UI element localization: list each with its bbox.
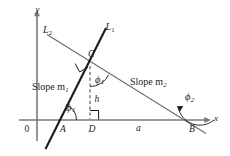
angle-label-phi1-at-A: ϕ1: [66, 103, 75, 115]
slope-label-m1-text: Slope m: [32, 81, 65, 92]
segment-label-a: a: [136, 124, 141, 134]
angle-label-phi1-at-A-subscript: 1: [71, 106, 75, 114]
right-angle-marker-d: [90, 111, 99, 120]
x-axis-arrowhead: [204, 117, 211, 123]
figure-canvas: [0, 0, 230, 156]
line-label-L1: L1: [106, 22, 115, 34]
geometry-figure: y x 0 L2 L1 Slope m1 Slope m2 A D B C h …: [0, 0, 230, 156]
x-axis-label: x: [214, 114, 218, 123]
angle-label-phi1-at-C: ϕ1: [95, 75, 104, 87]
point-label-A: A: [60, 125, 66, 135]
angle-label-phi2-at-B: ϕ2: [185, 92, 194, 104]
line-L2: [47, 35, 206, 134]
line-label-L2-subscript: 2: [49, 29, 53, 36]
point-label-B: B: [189, 125, 195, 135]
slope-label-m2-text: Slope m: [130, 76, 163, 87]
angle-arc-phi2-arrowhead: [177, 106, 183, 112]
segment-label-h: h: [95, 95, 100, 105]
slope-label-m1: Slope m1: [32, 82, 69, 94]
angle-label-phi2-at-B-subscript: 2: [190, 96, 194, 104]
angle-label-phi1-at-C-subscript: 1: [100, 78, 104, 86]
point-label-D: D: [89, 125, 96, 135]
line-label-L2: L2: [43, 25, 52, 37]
point-label-C: C: [88, 50, 94, 60]
y-axis-label: y: [36, 5, 40, 14]
angle-arc-phi2-b: [178, 107, 214, 125]
slope-label-m1-subscript: 1: [65, 86, 69, 93]
slope-label-m2-subscript: 2: [163, 81, 167, 88]
slope-label-m2: Slope m2: [130, 77, 167, 89]
line-label-L1-subscript: 1: [111, 26, 115, 33]
origin-label: 0: [25, 125, 30, 135]
line-label-L2-letter: L: [43, 24, 49, 35]
